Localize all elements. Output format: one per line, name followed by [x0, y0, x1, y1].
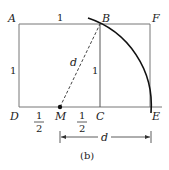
point-m [58, 105, 62, 109]
label-d: D [9, 110, 19, 123]
frac-mc-den: 2 [79, 123, 85, 134]
figure-caption: (b) [80, 150, 94, 161]
label-a: A [7, 12, 16, 25]
dim-arrow-right [145, 135, 150, 139]
label-e: E [151, 110, 160, 123]
label-left-1: 1 [10, 65, 16, 76]
label-b: B [101, 12, 110, 25]
frac-mc-num: 1 [79, 110, 85, 121]
label-c: C [96, 110, 105, 123]
dim-arrow-left [61, 135, 66, 139]
label-f: F [151, 12, 160, 25]
frac-dm-num: 1 [36, 110, 42, 121]
frac-dm-den: 2 [36, 123, 42, 134]
label-bc-1: 1 [92, 65, 98, 76]
golden-rectangle-diagram: A B F D M C E 1 1 1 d 1 2 1 2 d (b) [0, 0, 169, 170]
label-top-1: 1 [57, 12, 63, 23]
label-dimension-d: d [101, 131, 108, 144]
label-diagonal-d: d [70, 56, 77, 69]
label-m: M [54, 110, 67, 123]
